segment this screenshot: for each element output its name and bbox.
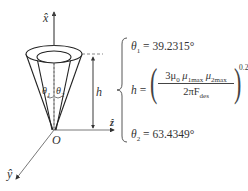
h-exponent: 0.25: [239, 63, 248, 72]
y-axis-label: ŷ: [7, 168, 12, 180]
h-fraction: 3μ0 μ1max μ2max 2πFdes: [158, 70, 234, 97]
theta2-label: θ2: [56, 86, 64, 96]
theta1-label: θ1: [42, 86, 50, 96]
y-axis: [16, 130, 54, 179]
inner-rim: [37, 51, 71, 63]
theta2-equation: θ2 = 63.4349°: [131, 129, 194, 141]
height-label: h: [96, 86, 102, 98]
left-paren: (: [150, 63, 157, 103]
theta1-equation: θ1 = 39.2315°: [131, 41, 194, 53]
origin-label: O: [52, 134, 61, 146]
h-equation-lhs: h =: [131, 85, 146, 97]
h-denominator: 2πFdes: [158, 84, 234, 97]
cone-diagram: x̂ ẑ ŷ O h θ1 θ2 θ1 = 39.2315° h = ( 3μ0…: [0, 0, 248, 191]
equation-brace: [117, 38, 127, 142]
z-axis-label: ẑ: [110, 118, 114, 128]
x-axis-label: x̂: [43, 12, 48, 24]
h-numerator: 3μ0 μ1max μ2max: [158, 70, 234, 84]
